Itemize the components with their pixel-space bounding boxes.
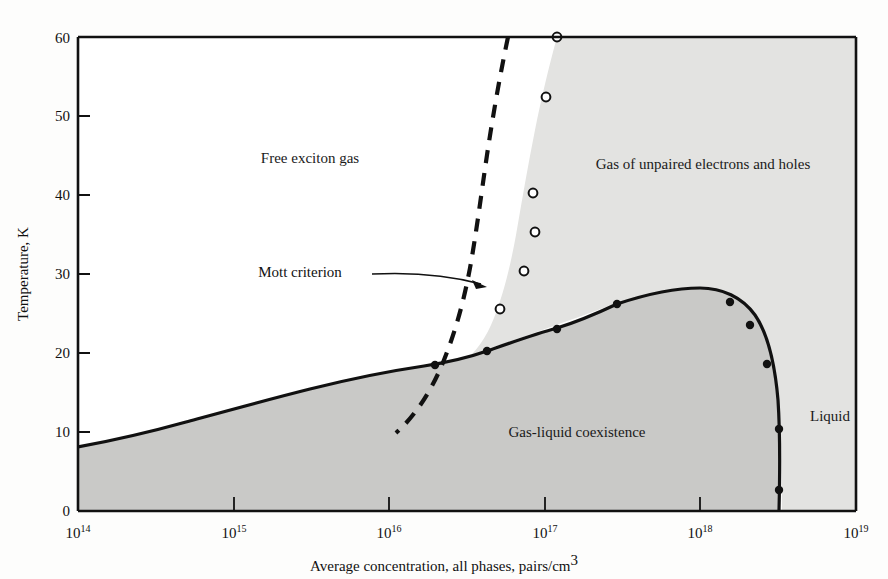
x-tick-label: 1017	[533, 523, 558, 541]
data-point-filled	[553, 325, 561, 333]
x-tick-label: 1015	[222, 523, 247, 541]
y-tick-label: 40	[55, 187, 70, 203]
region-label-liquid: Liquid	[810, 408, 850, 424]
x-axis-title: Average concentration, all phases, pairs…	[310, 552, 578, 574]
y-axis-title: Temperature, K	[15, 227, 31, 321]
phase-diagram-svg: 0 10 20 30 40 50 60 1014 1015 1016 1017 …	[0, 0, 888, 579]
y-tick-label: 0	[63, 503, 71, 519]
x-axis-tick-labels: 1014 1015 1016 1017 1018 1019	[66, 523, 869, 541]
annotation-mott-criterion: Mott criterion	[258, 264, 342, 280]
x-tick-label: 1019	[844, 523, 869, 541]
data-point-open	[529, 189, 538, 198]
data-point-filled	[775, 425, 783, 433]
y-tick-label: 30	[55, 266, 70, 282]
data-point-filled	[613, 300, 621, 308]
y-tick-label: 20	[55, 345, 70, 361]
region-label-gas-liquid-coexistence: Gas-liquid coexistence	[508, 424, 645, 440]
phase-diagram-figure: 0 10 20 30 40 50 60 1014 1015 1016 1017 …	[0, 0, 888, 579]
y-tick-label: 60	[55, 30, 70, 46]
data-point-filled	[775, 486, 783, 494]
data-point-filled	[763, 360, 771, 368]
data-point-filled	[483, 347, 491, 355]
data-point-open	[520, 267, 529, 276]
data-point-filled	[431, 361, 439, 369]
x-tick-label: 1014	[66, 523, 91, 541]
y-axis-tick-labels: 0 10 20 30 40 50 60	[55, 30, 70, 519]
x-tick-label: 1018	[688, 523, 713, 541]
region-label-unpaired-plasma: Gas of unpaired electrons and holes	[596, 156, 811, 172]
data-point-open	[542, 93, 551, 102]
y-tick-label: 10	[55, 424, 70, 440]
y-tick-label: 50	[55, 108, 70, 124]
data-point-open	[531, 228, 540, 237]
data-point-filled	[726, 298, 734, 306]
data-point-filled	[746, 321, 754, 329]
region-label-free-exciton-gas: Free exciton gas	[261, 150, 359, 166]
data-point-open	[496, 305, 505, 314]
x-tick-label: 1016	[377, 523, 402, 541]
